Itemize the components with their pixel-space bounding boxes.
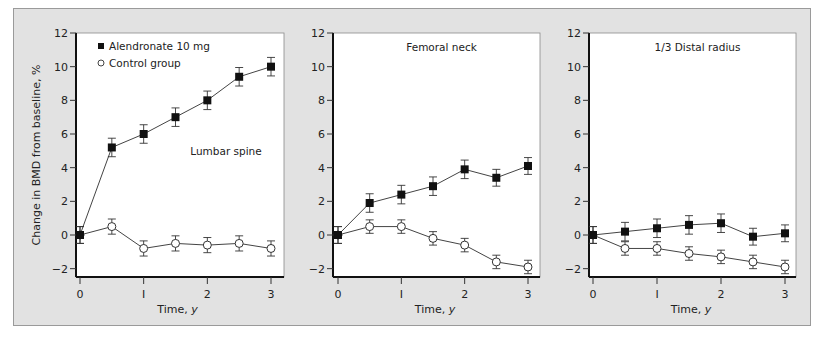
data-point-circle	[717, 253, 725, 261]
data-point-circle	[781, 263, 789, 271]
y-tick-label: −2	[309, 263, 325, 276]
y-tick-label: 12	[567, 27, 581, 40]
y-tick-label: 6	[318, 128, 325, 141]
data-point-square	[235, 73, 243, 81]
data-point-circle	[524, 263, 532, 271]
data-point-circle	[203, 241, 211, 249]
y-tick-label: 8	[574, 94, 581, 107]
legend-label-control: Control group	[109, 57, 181, 69]
x-axis-title: Time, y	[156, 303, 198, 316]
data-point-square	[781, 229, 789, 237]
x-tick-label: I	[655, 288, 658, 301]
plot-area	[589, 33, 796, 277]
legend-marker-alendronate	[98, 43, 104, 49]
y-tick-label: 10	[54, 61, 68, 74]
y-tick-label: 8	[318, 94, 325, 107]
chart-canvas: −20246810120I23Time, yLumbar spine −2024…	[0, 0, 826, 339]
data-point-circle	[140, 244, 148, 252]
y-tick-label: 0	[574, 229, 581, 242]
legend-label-alendronate: Alendronate 10 mg	[109, 40, 210, 52]
y-tick-label: 2	[61, 195, 68, 208]
y-tick-label: 0	[318, 229, 325, 242]
legend-marker-control	[98, 60, 104, 66]
data-point-circle	[267, 244, 275, 252]
y-tick-label: 12	[311, 27, 325, 40]
data-point-circle	[397, 223, 405, 231]
data-point-circle	[366, 223, 374, 231]
x-axis-title: Time, y	[670, 303, 712, 316]
data-point-square	[717, 219, 725, 227]
x-tick-label: 2	[718, 288, 725, 301]
data-point-square	[492, 174, 500, 182]
panel-title: Lumbar spine	[190, 145, 261, 157]
data-point-circle	[172, 239, 180, 247]
data-point-square	[108, 143, 116, 151]
data-point-square	[366, 199, 374, 207]
data-point-circle	[461, 241, 469, 249]
data-point-square	[76, 231, 84, 239]
x-tick-label: 0	[77, 288, 84, 301]
data-point-square	[203, 96, 211, 104]
data-point-square	[140, 130, 148, 138]
x-tick-label: 0	[335, 288, 342, 301]
panel-title: 1/3 Distal radius	[655, 41, 741, 53]
x-tick-label: I	[142, 288, 145, 301]
x-axis-title: Time, y	[414, 303, 456, 316]
panel-lumbar-spine: −20246810120I23Time, yLumbar spine	[52, 27, 284, 316]
y-tick-label: 0	[61, 229, 68, 242]
data-point-circle	[749, 258, 757, 266]
x-tick-label: 0	[590, 288, 597, 301]
panel-title: Femoral neck	[406, 41, 477, 53]
y-tick-label: 4	[61, 162, 68, 175]
y-tick-label: 10	[567, 61, 581, 74]
data-point-circle	[108, 223, 116, 231]
data-point-circle	[429, 234, 437, 242]
panel-femoral-neck: −20246810120I23Time, yFemoral neck	[309, 27, 540, 316]
y-tick-label: 12	[54, 27, 68, 40]
y-tick-label: 4	[574, 162, 581, 175]
y-tick-label: −2	[52, 263, 68, 276]
data-point-square	[334, 231, 342, 239]
x-tick-label: 3	[268, 288, 275, 301]
data-point-square	[589, 231, 597, 239]
data-point-square	[685, 221, 693, 229]
data-point-circle	[492, 258, 500, 266]
y-tick-label: 4	[318, 162, 325, 175]
data-point-square	[524, 162, 532, 170]
data-point-square	[653, 224, 661, 232]
y-tick-label: −2	[565, 263, 581, 276]
data-point-circle	[621, 244, 629, 252]
data-point-circle	[235, 239, 243, 247]
x-tick-label: 3	[782, 288, 789, 301]
data-point-square	[429, 182, 437, 190]
y-tick-label: 6	[574, 128, 581, 141]
data-point-circle	[685, 250, 693, 258]
data-point-square	[397, 191, 405, 199]
data-point-square	[172, 113, 180, 121]
x-tick-label: I	[400, 288, 403, 301]
data-point-square	[749, 233, 757, 241]
x-tick-label: 2	[204, 288, 211, 301]
data-point-square	[461, 165, 469, 173]
y-tick-label: 2	[574, 195, 581, 208]
y-tick-label: 8	[61, 94, 68, 107]
x-tick-label: 2	[461, 288, 468, 301]
data-point-square	[267, 63, 275, 71]
data-point-circle	[653, 244, 661, 252]
x-tick-label: 3	[525, 288, 532, 301]
y-tick-label: 2	[318, 195, 325, 208]
y-axis-title: Change in BMD from baseline, %	[30, 65, 43, 246]
panel-distal-radius: −20246810120I23Time, y1/3 Distal radius	[565, 27, 796, 316]
y-tick-label: 6	[61, 128, 68, 141]
y-tick-label: 10	[311, 61, 325, 74]
data-point-square	[621, 228, 629, 236]
